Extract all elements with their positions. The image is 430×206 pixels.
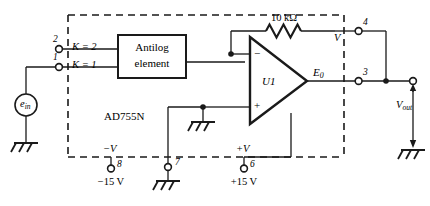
pin-4-terminal[interactable]: [355, 28, 362, 35]
pin-8-number: 8: [117, 160, 122, 170]
input-source-label: ein: [20, 99, 31, 111]
input-source-group: [11, 67, 59, 152]
antilog-block-line1: Antilog: [118, 42, 186, 53]
pin-8-terminal[interactable]: [108, 165, 115, 172]
output-terminal-group: [398, 78, 425, 159]
pin-4-group: [335, 28, 386, 81]
opamp-noninverting-sign: +: [254, 100, 260, 111]
opamp-output-label: E0: [313, 67, 324, 80]
vout-arrow-up: [410, 84, 416, 91]
pin-4-signal-label: V: [334, 33, 340, 44]
feedback-network: [228, 25, 335, 57]
gain-label-k1: K = 1: [72, 60, 97, 71]
circuit-diagram-root: 2 1 4 3 8 7 6 K = 2 K = 1 Antilog elemen…: [0, 0, 430, 206]
output-voltage-sub: out: [402, 103, 412, 112]
pin-4-number: 4: [363, 18, 368, 28]
input-source-sub: in: [25, 102, 31, 111]
ground-symbol-pin7: [153, 181, 180, 190]
pin-3-terminal[interactable]: [355, 78, 362, 85]
pin-6-group: [241, 157, 248, 172]
package-boundary-dashed: [68, 15, 344, 157]
pin-7-number: 7: [175, 158, 180, 168]
opamp-designator: U1: [262, 76, 275, 87]
pin-6-terminal[interactable]: [241, 165, 248, 172]
opamp-u1: [231, 37, 355, 124]
pin-6-number: 6: [250, 160, 255, 170]
pin-1-number: 1: [53, 53, 58, 63]
pin-3-group: [355, 78, 413, 85]
positive-supply-value: +15 V: [214, 177, 274, 188]
opamp-output-sub: 0: [320, 71, 324, 80]
output-voltage-label: Vout: [396, 100, 412, 112]
ground-symbol-noninverting: [188, 122, 215, 131]
pin-7-terminal[interactable]: [165, 164, 172, 171]
positive-rail-label: +V: [236, 144, 250, 155]
negative-rail-label: −V: [103, 144, 117, 155]
resistor-value-label: 10 kΩ: [248, 13, 320, 24]
ground-symbol-output: [398, 150, 425, 159]
vout-arrow-down: [410, 140, 416, 148]
output-terminal[interactable]: [410, 78, 417, 85]
schematic-canvas: [0, 0, 430, 206]
chip-label: AD755N: [104, 111, 144, 122]
junction-output-rail: [383, 78, 389, 84]
opamp-inverting-sign: −: [254, 48, 260, 59]
negative-supply-value: −15 V: [81, 177, 141, 188]
gain-label-k2: K = 2: [72, 42, 97, 53]
pin-3-number: 3: [363, 68, 368, 78]
opamp-output-main: E: [313, 66, 320, 78]
resistor-10k-symbol: [266, 25, 301, 38]
pin-7-group: [153, 164, 180, 190]
pin-2-number: 2: [53, 35, 58, 45]
pin-1-terminal[interactable]: [56, 64, 63, 71]
ground-symbol-input: [11, 143, 38, 152]
pin-8-group: [108, 157, 115, 172]
antilog-block-line2: element: [118, 58, 186, 69]
